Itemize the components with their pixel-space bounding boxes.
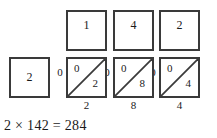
lattice-cell-3: 0 4 [159, 57, 200, 98]
lattice-cell-2-ones: 8 [140, 78, 146, 89]
product-digit-1: 2 [66, 100, 107, 111]
lattice-cell-1: 0 2 [66, 57, 107, 98]
multiplicand-digit-3: 2 [161, 19, 198, 31]
lattice-cell-1-tens: 0 [74, 63, 80, 74]
equation-text: 2 × 142 = 284 [4, 118, 87, 134]
multiplier-cell: 2 [9, 57, 50, 98]
lattice-cell-2-tens: 0 [121, 63, 127, 74]
lattice-cell-3-tens: 0 [167, 63, 173, 74]
multiplier-digit: 2 [11, 71, 48, 83]
product-digit-3: 4 [159, 100, 200, 111]
multiplicand-cell-2: 4 [113, 10, 154, 51]
multiplicand-cell-3: 2 [159, 10, 200, 51]
lattice-cell-2: 0 8 [113, 57, 154, 98]
multiplicand-digit-1: 1 [68, 19, 105, 31]
lattice-multiplication-diagram: 1 4 2 2 0 0 0 0 2 0 8 0 4 2 8 4 2 × [0, 0, 217, 138]
multiplicand-cell-1: 1 [66, 10, 107, 51]
carry-label-1: 0 [55, 67, 65, 78]
multiplicand-digit-2: 4 [115, 19, 152, 31]
lattice-cell-3-ones: 4 [186, 78, 192, 89]
lattice-cell-1-ones: 2 [93, 78, 99, 89]
product-digit-2: 8 [113, 100, 154, 111]
